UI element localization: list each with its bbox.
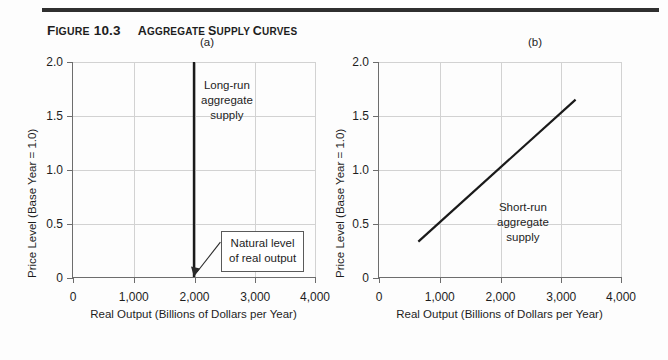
tick-y-1.5 [373, 116, 379, 117]
short-run-aggregate-supply-label: Short-run aggregate supply [497, 200, 549, 246]
lras-label-line-1: Long-run [201, 78, 253, 93]
panel-b-label: (b) [334, 36, 668, 48]
xticklabel-4000: 4,000 [300, 290, 330, 304]
panel-a-yaxis-title: Price Level (Base Year = 1.0) [26, 129, 38, 278]
lras-label-line-2: aggregate [201, 93, 253, 108]
xticklabel-2000: 2,000 [179, 290, 209, 304]
gridline-y-1.5 [73, 116, 315, 117]
gridline-y-0.5 [73, 224, 315, 225]
yticklabel-0.5: 0.5 [352, 217, 369, 231]
xticklabel-4000: 4,000 [606, 290, 636, 304]
tick-x-0 [73, 277, 74, 283]
sras-label-line-1: Short-run [497, 200, 549, 215]
tick-x-1000 [134, 277, 135, 283]
tick-x-1000 [440, 277, 441, 283]
xticklabel-1000: 1,000 [425, 290, 455, 304]
figure-container: FIGURE 10.3AGGREGATE SUPPLY CURVES (a) P… [0, 0, 668, 360]
gridline-y-1.0 [73, 170, 315, 171]
tick-y-0.5 [373, 224, 379, 225]
panel-a-label: (a) [0, 36, 374, 48]
xticklabel-1000: 1,000 [119, 290, 149, 304]
yticklabel-1.5: 1.5 [46, 109, 63, 123]
gridline-x-4000 [621, 62, 622, 277]
gridline-y-2.0 [73, 62, 315, 63]
sras-label-line-3: supply [497, 230, 549, 245]
natural-level-callout: Natural level of real output [221, 231, 304, 272]
tick-x-0 [379, 277, 380, 283]
xticklabel-0: 0 [70, 290, 77, 304]
panel-a-plot-area: 0 1,000 2,000 3,000 4,000 0 0.5 1.0 1.5 … [72, 62, 315, 278]
tick-y-0 [67, 278, 73, 279]
tick-x-2000 [195, 277, 196, 283]
panel-b-yaxis-title: Price Level (Base Year = 1.0) [334, 129, 346, 278]
yticklabel-1.0: 1.0 [46, 163, 63, 177]
tick-y-2.0 [67, 62, 73, 63]
natural-callout-line-2: of real output [229, 251, 296, 266]
panel-b: (b) Price Level (Base Year = 1.0) Real O… [334, 36, 668, 356]
yticklabel-2.0: 2.0 [352, 55, 369, 69]
panel-b-plot-area: 0 1,000 2,000 3,000 4,000 0 0.5 1.0 1.5 … [378, 62, 621, 278]
tick-x-2000 [501, 277, 502, 283]
xticklabel-3000: 3,000 [240, 290, 270, 304]
tick-x-3000 [255, 277, 256, 283]
yticklabel-1.0: 1.0 [352, 163, 369, 177]
tick-y-1.0 [67, 170, 73, 171]
tick-x-3000 [561, 277, 562, 283]
yticklabel-0.5: 0.5 [46, 217, 63, 231]
long-run-aggregate-supply-label: Long-run aggregate supply [201, 78, 253, 124]
tick-y-2.0 [373, 62, 379, 63]
gridline-y-2.0 [379, 62, 621, 63]
yticklabel-0: 0 [362, 271, 369, 285]
panel-b-xaxis-title: Real Output (Billions of Dollars per Yea… [378, 308, 621, 320]
lras-label-line-3: supply [201, 108, 253, 123]
gridline-x-4000 [315, 62, 316, 277]
xticklabel-2000: 2,000 [485, 290, 515, 304]
tick-x-4000 [315, 277, 316, 283]
yticklabel-0: 0 [56, 271, 63, 285]
panel-a-xaxis-title: Real Output (Billions of Dollars per Yea… [72, 308, 315, 320]
gridline-y-1.5 [379, 116, 621, 117]
header-divider [42, 8, 659, 12]
yticklabel-1.5: 1.5 [352, 109, 369, 123]
xticklabel-3000: 3,000 [546, 290, 576, 304]
gridline-y-1.0 [379, 170, 621, 171]
natural-callout-line-1: Natural level [229, 236, 296, 251]
xticklabel-0: 0 [376, 290, 383, 304]
tick-x-4000 [621, 277, 622, 283]
sras-label-line-2: aggregate [497, 215, 549, 230]
tick-y-0.5 [67, 224, 73, 225]
panel-a: (a) Price Level (Base Year = 1.0) Real O… [0, 36, 334, 356]
yticklabel-2.0: 2.0 [46, 55, 63, 69]
tick-y-1.5 [67, 116, 73, 117]
tick-y-1.0 [373, 170, 379, 171]
tick-y-0 [373, 278, 379, 279]
